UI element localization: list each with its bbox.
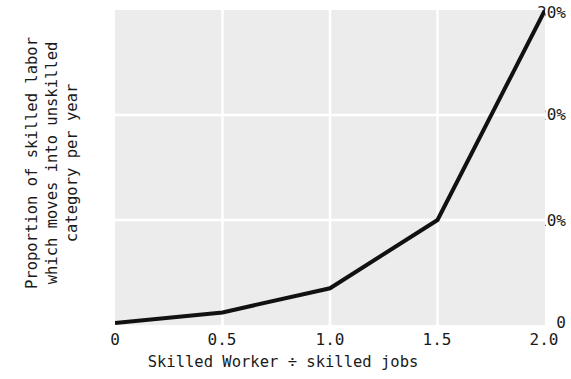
- y-axis-title-line-1: Proportion of skilled labor: [22, 37, 42, 289]
- x-tick-label-0: 0: [80, 330, 150, 349]
- plot-canvas: [115, 10, 545, 325]
- y-axis-title-line-2: which moves into unskilled: [42, 42, 62, 285]
- x-tick-label-1-0: 1.0: [295, 330, 365, 349]
- x-tick-label-2-0: 2.0: [509, 330, 571, 349]
- y-axis-title: Proportion of skilled labor which moves …: [21, 0, 83, 328]
- y-axis-title-line-3: category per year: [62, 84, 82, 243]
- plot-panel: [115, 10, 545, 325]
- x-axis-title: Skilled Worker ÷ skilled jobs: [0, 353, 566, 371]
- x-tick-label-0-5: 0.5: [187, 330, 257, 349]
- x-tick-label-1-5: 1.5: [402, 330, 472, 349]
- x-gridlines: [223, 10, 438, 325]
